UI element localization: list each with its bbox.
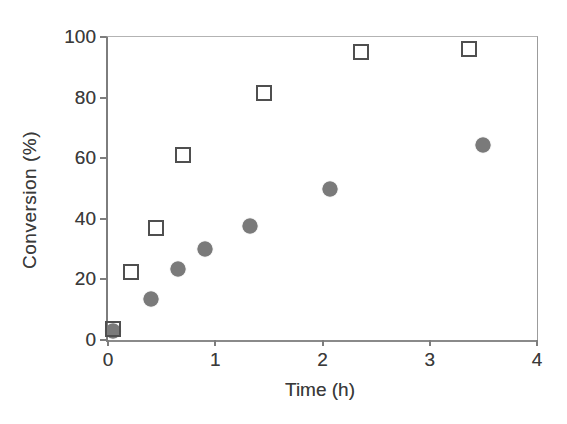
x-tick-label: 4 [517, 349, 557, 371]
y-tick-label: 80 [50, 87, 96, 109]
y-tick-label: 100 [50, 26, 96, 48]
data-point-circle [323, 181, 338, 196]
y-axis-tick [100, 97, 106, 99]
x-axis-tick [322, 340, 324, 346]
x-tick-label: 0 [88, 349, 128, 371]
data-point-circle [197, 242, 212, 257]
x-tick-label: 1 [195, 349, 235, 371]
data-point-circle [143, 292, 158, 307]
data-point-square [461, 41, 477, 57]
data-point-square [123, 264, 139, 280]
data-point-square [105, 321, 121, 337]
y-axis-tick [100, 218, 106, 220]
y-axis-tick [100, 157, 106, 159]
y-tick-label: 60 [50, 147, 96, 169]
x-axis-tick [214, 340, 216, 346]
x-tick-label: 2 [303, 349, 343, 371]
data-point-circle [242, 219, 257, 234]
y-axis-tick [100, 36, 106, 38]
y-tick-label: 20 [50, 268, 96, 290]
y-tick-label: 0 [50, 329, 96, 351]
x-axis-tick [107, 340, 109, 346]
scatter-chart-figure: Conversion (%) 01234020406080100 Time (h… [0, 0, 567, 424]
data-point-square [148, 220, 164, 236]
data-point-circle [170, 261, 185, 276]
x-tick-label: 3 [410, 349, 450, 371]
y-axis-tick [100, 339, 106, 341]
data-point-circle [476, 137, 491, 152]
x-axis-title: Time (h) [285, 379, 355, 401]
x-axis-tick [536, 340, 538, 346]
y-tick-label: 40 [50, 208, 96, 230]
data-point-square [175, 147, 191, 163]
x-axis-tick [429, 340, 431, 346]
y-axis-title: Conversion (%) [19, 131, 41, 269]
plot-area: 01234020406080100 [106, 36, 538, 342]
data-point-square [256, 85, 272, 101]
y-axis-tick [100, 278, 106, 280]
data-point-square [353, 44, 369, 60]
